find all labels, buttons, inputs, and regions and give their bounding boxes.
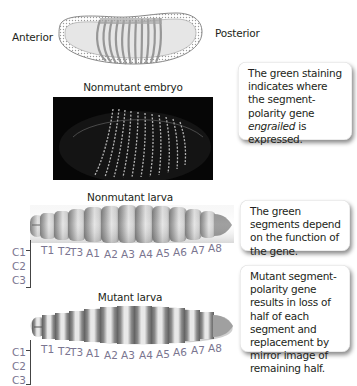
anterior-label: Anterior [12, 31, 53, 43]
segment-label-a6: A6 [173, 246, 187, 258]
head-bracket-stem [30, 240, 31, 264]
mutant-head-label-c2: C2 [12, 360, 26, 372]
mutant-segment-label-a7: A7 [191, 344, 205, 356]
mutant-larva-title: Mutant larva [30, 291, 230, 303]
gene-name-engrailed: engrailed [248, 120, 295, 132]
head-label-c2: C2 [12, 260, 26, 272]
nonmutant-embryo-title: Nonmutant embryo [53, 81, 213, 93]
posterior-label: Posterior [215, 27, 260, 39]
mutant-segment-label-a4: A4 [139, 349, 153, 361]
callout-segments: The green segments depend on the functio… [240, 200, 350, 251]
mutant-segment-label-a1: A1 [86, 347, 100, 359]
callout-mutant: Mutant segment-polarity gene results in … [240, 265, 350, 352]
segment-label-a8: A8 [208, 242, 222, 254]
mutant-segment-label-a2: A2 [104, 349, 118, 361]
mutant-segment-label-a8: A8 [208, 342, 222, 354]
mutant-segment-label-t1: T1 [41, 343, 54, 355]
mutant-segment-label-t3: T3 [70, 346, 83, 358]
segment-label-a3: A3 [121, 248, 135, 260]
callout-segments-text: The green segments depend on the functio… [250, 205, 341, 257]
segment-label-a4: A4 [139, 248, 153, 260]
nonmutant-larva [28, 203, 238, 245]
mutant-head-bracket-stem [30, 340, 31, 364]
larva-nonmutant-icon [28, 203, 238, 245]
segment-label-t1: T1 [41, 244, 54, 256]
callout-staining-text: The green staining indicates where the s… [248, 67, 342, 119]
segment-label-t3: T3 [70, 246, 83, 258]
embryo-stain-image [53, 97, 213, 180]
segment-label-a1: A1 [86, 247, 100, 259]
callout-staining: The green staining indicates where the s… [238, 62, 352, 140]
segment-label-a2: A2 [104, 248, 118, 260]
larva-mutant-icon [28, 303, 238, 347]
mutant-larva [28, 303, 238, 347]
embryo-schematic-icon [56, 10, 204, 66]
head-label-c3: C3 [12, 274, 26, 286]
mutant-head-label-c3: C3 [12, 374, 26, 386]
schematic-embryo [56, 10, 204, 66]
mutant-segment-label-a5: A5 [156, 348, 170, 360]
mutant-head-label-c1: C1 [12, 346, 26, 358]
mutant-segment-label-a3: A3 [121, 349, 135, 361]
segment-label-a7: A7 [191, 244, 205, 256]
callout-mutant-text: Mutant segment-polarity gene results in … [250, 270, 336, 374]
mutant-segment-label-a6: A6 [173, 346, 187, 358]
nonmutant-larva-title: Nonmutant larva [30, 191, 230, 203]
segment-label-a5: A5 [156, 247, 170, 259]
nonmutant-embryo-photo [53, 97, 213, 180]
head-label-c1: C1 [12, 246, 26, 258]
